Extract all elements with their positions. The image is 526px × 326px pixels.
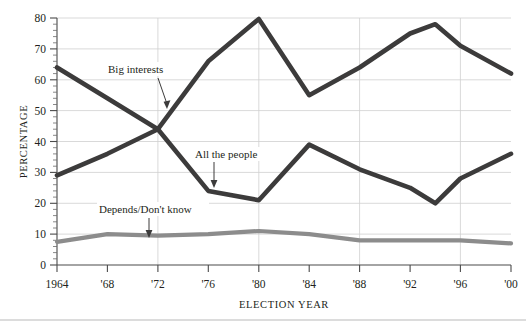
line-chart-canvas: 80 70 60 50 40 30 20 10 0 1964 '68 '72 '… xyxy=(0,0,526,326)
x-tick-label: '00 xyxy=(504,278,518,290)
x-tick-label: '80 xyxy=(252,278,266,290)
x-axis-title: ELECTION YEAR xyxy=(239,299,329,310)
x-tick-label: '68 xyxy=(101,278,115,290)
x-tick-label: '76 xyxy=(202,278,216,290)
y-axis-title: PERCENTAGE xyxy=(18,105,29,178)
annotation-depends-dont-know-label: Depends/Don't know xyxy=(99,203,192,215)
y-tick-label: 70 xyxy=(35,43,47,55)
y-tick-label: 50 xyxy=(35,105,47,117)
y-tick-label: 80 xyxy=(35,12,47,24)
chart-figure: 80 70 60 50 40 30 20 10 0 1964 '68 '72 '… xyxy=(0,0,526,326)
y-tick-label: 60 xyxy=(35,74,47,86)
x-tick-label: '88 xyxy=(353,278,367,290)
y-axis-tick-labels: 80 70 60 50 40 30 20 10 0 xyxy=(35,12,47,271)
annotation-big-interests-label: Big interests xyxy=(108,63,163,75)
annotation-all-the-people-label: All the people xyxy=(195,148,257,160)
y-tick-label: 10 xyxy=(35,228,47,240)
x-tick-label: 1964 xyxy=(46,278,69,290)
x-tick-label: '96 xyxy=(454,278,468,290)
x-tick-label: '92 xyxy=(403,278,417,290)
x-tick-label: '84 xyxy=(302,278,316,290)
x-tick-label: '72 xyxy=(151,278,165,290)
y-tick-label: 40 xyxy=(35,136,47,148)
y-tick-label: 30 xyxy=(35,166,47,178)
y-tick-label: 20 xyxy=(35,197,47,209)
y-tick-label: 0 xyxy=(40,259,46,271)
